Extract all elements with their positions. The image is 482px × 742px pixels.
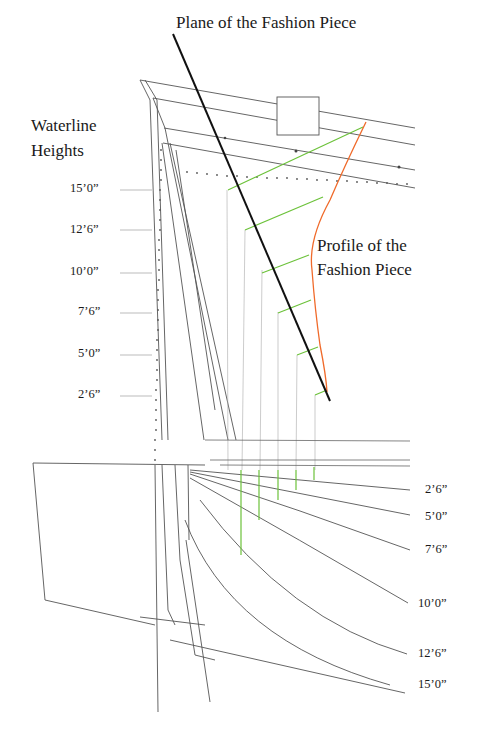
right-tick-12-6: 12’6” [418, 647, 446, 660]
vertical-projection-lines [227, 190, 315, 470]
left-tick-7-6: 7’6” [78, 305, 100, 318]
left-tick-15-0: 15’0” [70, 182, 98, 195]
fashion-piece-profile-curve [311, 122, 366, 392]
half-breadth-plan [33, 463, 410, 712]
left-tick-lines [120, 190, 152, 396]
right-tick-5-0: 5’0” [425, 510, 447, 523]
plane-line [173, 34, 330, 401]
fashion-piece-diagram [0, 0, 482, 742]
left-tick-5-0: 5’0” [78, 347, 100, 360]
right-tick-10-0: 10’0” [418, 597, 446, 610]
waterline-horizontals [205, 440, 410, 466]
left-tick-10-0: 10’0” [70, 265, 98, 278]
right-tick-7-6: 7’6” [425, 543, 447, 556]
waterline-title-line1: Waterline [31, 117, 97, 134]
profile-title-line1: Profile of the [317, 237, 407, 254]
left-tick-12-6: 12’6” [70, 223, 98, 236]
right-tick-2-6: 2’6” [425, 483, 447, 496]
plane-title: Plane of the Fashion Piece [176, 14, 356, 31]
waterline-title-line2: Heights [31, 142, 84, 159]
profile-title-line2: Fashion Piece [317, 261, 412, 278]
right-tick-15-0: 15’0” [418, 678, 446, 691]
dotted-guides [154, 149, 408, 461]
left-tick-2-6: 2’6” [78, 388, 100, 401]
